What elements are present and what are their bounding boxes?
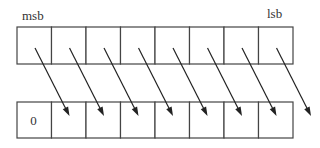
source-bit-cell xyxy=(155,27,190,64)
result-bit-cell xyxy=(259,102,294,138)
source-bit-cell xyxy=(17,27,52,64)
result-bit-cell xyxy=(52,102,87,138)
shift-right-diagram: msb lsb 0 xyxy=(0,0,320,148)
source-bit-cell xyxy=(121,27,156,64)
source-bit-cell xyxy=(86,27,121,64)
source-bit-cell xyxy=(259,27,294,64)
result-bit-cell xyxy=(224,102,259,138)
msb-label: msb xyxy=(22,8,44,23)
source-register xyxy=(17,27,293,64)
lsb-label: lsb xyxy=(267,6,282,21)
result-bit-cell xyxy=(190,102,225,138)
result-bit-cell xyxy=(121,102,156,138)
source-bit-cell xyxy=(190,27,225,64)
bit-value: 0 xyxy=(30,113,37,128)
arrowhead-icon xyxy=(304,107,311,116)
result-bit-cell xyxy=(86,102,121,138)
result-register: 0 xyxy=(17,102,293,138)
result-bit-cell xyxy=(155,102,190,138)
source-bit-cell xyxy=(224,27,259,64)
source-bit-cell xyxy=(52,27,87,64)
